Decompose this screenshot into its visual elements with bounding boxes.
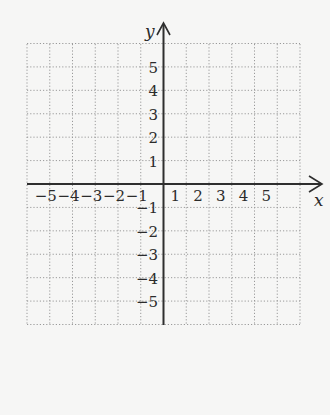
y-tick-label: −1 — [136, 199, 158, 217]
x-tick-label: 5 — [262, 187, 272, 205]
coordinate-plane: x y −5−4−3−2−112345 54321−1−2−3−4−5 — [0, 0, 330, 415]
y-tick-label: −4 — [136, 270, 158, 288]
y-tick-label: 4 — [148, 82, 158, 100]
x-tick-label: 2 — [193, 187, 203, 205]
x-tick-label: −2 — [103, 187, 125, 205]
x-axis-label: x — [314, 190, 324, 210]
y-tick-label: 1 — [148, 153, 158, 171]
x-tick-label: 1 — [171, 187, 181, 205]
x-tick-label: −3 — [80, 187, 102, 205]
axes — [27, 23, 322, 325]
x-tick-label: 4 — [239, 187, 249, 205]
y-axis-label: y — [144, 21, 155, 41]
y-tick-label: 2 — [148, 129, 158, 147]
y-tick-label: 5 — [148, 59, 158, 77]
x-tick-label: −4 — [57, 187, 79, 205]
x-tick-label: 3 — [216, 187, 226, 205]
y-tick-label: −2 — [136, 223, 158, 241]
x-tick-label: −5 — [35, 187, 57, 205]
y-tick-label: −3 — [136, 246, 158, 264]
y-tick-label: −5 — [136, 293, 158, 311]
y-tick-label: 3 — [148, 106, 158, 124]
